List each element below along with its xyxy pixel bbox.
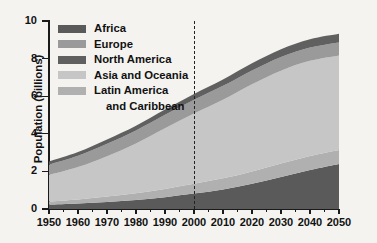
x-tick-minor-1995: [179, 209, 180, 212]
x-tick-2010: [222, 209, 223, 214]
legend-swatch-spacer: [58, 102, 86, 110]
y-tick-10: [42, 20, 48, 21]
population-area-chart: Population (billions) 1086420 1950196019…: [0, 0, 377, 243]
x-tick-2020: [251, 209, 252, 214]
x-tick-minor-1955: [63, 209, 64, 212]
x-tick-minor-2045: [324, 209, 325, 212]
legend-swatch-latin-america: [58, 87, 86, 95]
legend-label-latin-america: Latin America: [94, 83, 168, 97]
x-tick-1990: [164, 209, 165, 214]
x-tick-label-2050: 2050: [319, 216, 359, 228]
legend-label-and-caribbean: and Caribbean: [94, 99, 184, 113]
legend-item-europe: Europe: [58, 37, 218, 53]
chart-legend: Africa Europe North America Asia and Oce…: [58, 21, 218, 113]
y-tick-4: [42, 133, 48, 134]
x-tick-minor-2035: [295, 209, 296, 212]
x-tick-1980: [135, 209, 136, 214]
y-tick-label-6: 6: [0, 89, 37, 101]
y-tick-label-2: 2: [0, 164, 37, 176]
x-tick-minor-2005: [208, 209, 209, 212]
legend-label-europe: Europe: [94, 37, 133, 51]
x-tick-minor-1975: [121, 209, 122, 212]
legend-label-asia-and-oceania: Asia and Oceania: [94, 68, 188, 82]
legend-item-africa: Africa: [58, 21, 218, 37]
y-tick-6: [42, 96, 48, 97]
x-tick-minor-2015: [237, 209, 238, 212]
x-tick-minor-1985: [150, 209, 151, 212]
legend-label-africa: Africa: [94, 21, 126, 35]
y-tick-label-4: 4: [0, 127, 37, 139]
legend-swatch-north-america: [58, 56, 86, 64]
x-tick-1950: [48, 209, 49, 214]
x-tick-2030: [280, 209, 281, 214]
legend-swatch-asia-and-oceania: [58, 71, 86, 79]
legend-item-and-caribbean: and Caribbean: [58, 99, 218, 113]
legend-item-asia-and-oceania: Asia and Oceania: [58, 68, 218, 84]
x-tick-minor-2025: [266, 209, 267, 212]
x-tick-2050: [338, 209, 339, 214]
legend-item-latin-america: Latin America: [58, 83, 218, 99]
x-tick-2000: [193, 209, 194, 214]
x-tick-1970: [106, 209, 107, 214]
x-tick-1960: [77, 209, 78, 214]
legend-swatch-europe: [58, 40, 86, 48]
x-tick-2040: [309, 209, 310, 214]
y-tick-label-8: 8: [0, 52, 37, 64]
y-tick-8: [42, 58, 48, 59]
legend-item-north-america: North America: [58, 52, 218, 68]
y-tick-label-0: 0: [0, 202, 37, 214]
y-tick-label-10: 10: [0, 14, 37, 26]
y-tick-0: [42, 208, 48, 209]
x-tick-minor-1965: [92, 209, 93, 212]
legend-label-north-america: North America: [94, 52, 171, 66]
legend-swatch-africa: [58, 25, 86, 33]
y-tick-2: [42, 171, 48, 172]
